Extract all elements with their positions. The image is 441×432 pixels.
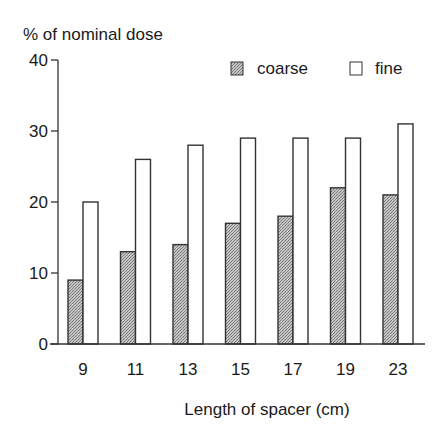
legend-swatch-fine xyxy=(350,62,362,75)
legend-label-fine: fine xyxy=(375,59,402,78)
y-axis-label: % of nominal dose xyxy=(23,25,163,44)
bar-fine xyxy=(398,124,413,344)
y-axis: 010203040 xyxy=(29,51,58,354)
y-tick-label: 10 xyxy=(29,264,48,283)
y-tick-label: 0 xyxy=(39,335,48,354)
x-axis-label: Length of spacer (cm) xyxy=(184,400,349,419)
legend-swatch-coarse xyxy=(231,62,243,75)
bar-fine xyxy=(83,202,98,344)
bar-group xyxy=(278,138,308,344)
legend: coarse fine xyxy=(231,59,402,78)
bar-coarse xyxy=(383,195,398,344)
x-tick-label: 15 xyxy=(231,360,250,379)
legend-label-coarse: coarse xyxy=(257,59,308,78)
bar-coarse xyxy=(121,252,136,344)
x-tick-label: 23 xyxy=(389,360,408,379)
x-tick-label: 17 xyxy=(284,360,303,379)
y-tick-label: 40 xyxy=(29,51,48,70)
bar-group xyxy=(121,159,151,344)
bar-group xyxy=(226,138,256,344)
x-tick-label: 13 xyxy=(179,360,198,379)
bar-fine xyxy=(346,138,361,344)
x-axis: 9111315171923 xyxy=(50,344,425,379)
bar-coarse xyxy=(331,188,346,344)
x-tick-label: 11 xyxy=(127,360,145,379)
y-tick-label: 20 xyxy=(29,193,48,212)
bar-fine xyxy=(136,159,151,344)
bars xyxy=(68,124,413,344)
bar-group xyxy=(173,145,203,344)
bar-fine xyxy=(241,138,256,344)
bar-chart: % of nominal dose 010203040 911131517192… xyxy=(0,0,441,432)
bar-group xyxy=(331,138,361,344)
y-tick-label: 30 xyxy=(29,122,48,141)
x-tick-label: 19 xyxy=(336,360,355,379)
bar-coarse xyxy=(226,223,241,344)
bar-coarse xyxy=(68,280,83,344)
bar-coarse xyxy=(278,216,293,344)
bar-group xyxy=(68,202,98,344)
bar-coarse xyxy=(173,245,188,344)
bar-group xyxy=(383,124,413,344)
x-tick-label: 9 xyxy=(78,360,87,379)
bar-fine xyxy=(293,138,308,344)
bar-fine xyxy=(188,145,203,344)
